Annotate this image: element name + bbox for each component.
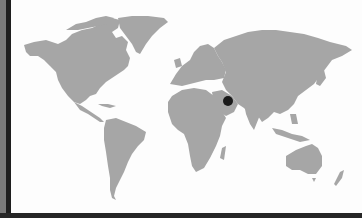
new-zealand [334, 170, 344, 186]
continent-australia [286, 144, 322, 174]
continent-south-america [104, 118, 146, 200]
world-map [0, 0, 362, 218]
central-america [74, 102, 104, 122]
philippines [290, 114, 298, 124]
frame-bottom-bar [0, 213, 362, 218]
british-isles [174, 58, 182, 68]
caribbean-islands [98, 104, 116, 108]
southeast-asia-islands [272, 128, 310, 142]
madagascar [220, 146, 226, 160]
tasmania [312, 178, 316, 182]
location-marker[interactable] [223, 96, 233, 106]
continent-north-america [24, 18, 130, 104]
